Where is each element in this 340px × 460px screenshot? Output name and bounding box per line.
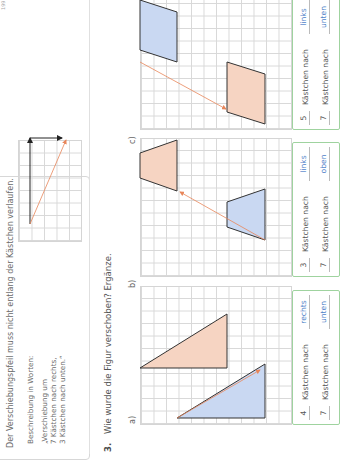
answer-text: Kästchen nach <box>321 344 330 400</box>
answer-text: Kästchen nach <box>301 344 310 400</box>
part-b-answer-box: 3 Kästchen nach links 7 Kästchen nach ob… <box>292 142 340 277</box>
answer-row: 3 Kästchen nach links <box>295 143 315 276</box>
answer-text: Kästchen nach <box>321 49 330 105</box>
part-a-image-triangle <box>140 314 227 368</box>
part-c-original-parallelogram <box>140 0 177 62</box>
answer-count-field[interactable]: 7 <box>319 111 330 125</box>
part-b-original-trapezoid <box>227 189 265 240</box>
part-c-shift-arrow-icon <box>140 62 226 109</box>
answer-text: Kästchen nach <box>321 196 330 252</box>
answer-count-field[interactable]: 4 <box>299 406 310 420</box>
answer-direction-field[interactable]: links <box>299 147 310 181</box>
answer-row: 5 Kästchen nach links <box>295 0 315 129</box>
answer-count-field[interactable]: 3 <box>299 258 310 272</box>
answer-direction-field[interactable]: oben <box>319 147 330 181</box>
answer-count-field[interactable]: 7 <box>319 406 330 420</box>
answer-row: 7 Kästchen nach oben <box>315 143 335 276</box>
answer-row: 7 Kästchen nach unten <box>315 291 335 424</box>
answer-direction-field[interactable]: unten <box>319 295 330 329</box>
answer-direction-field[interactable]: rechts <box>299 295 310 329</box>
answer-row: 7 Kästchen nach unten <box>315 0 335 129</box>
answer-count-field[interactable]: 7 <box>319 258 330 272</box>
answer-direction-field[interactable]: links <box>299 0 310 34</box>
part-a-original-triangle <box>177 364 265 418</box>
answer-text: Kästchen nach <box>301 196 310 252</box>
part-c-image-parallelogram <box>227 62 265 124</box>
part-c-answer-box: 5 Kästchen nach links 7 Kästchen nach un… <box>292 0 340 130</box>
answer-direction-field[interactable]: unten <box>319 0 330 34</box>
answer-row: 4 Kästchen nach rechts <box>295 291 315 424</box>
answer-count-field[interactable]: 5 <box>299 111 310 125</box>
answer-text: Kästchen nach <box>301 49 310 105</box>
part-a-answer-box: 4 Kästchen nach rechts 7 Kästchen nach u… <box>292 290 340 425</box>
part-b-image-trapezoid <box>140 140 177 191</box>
